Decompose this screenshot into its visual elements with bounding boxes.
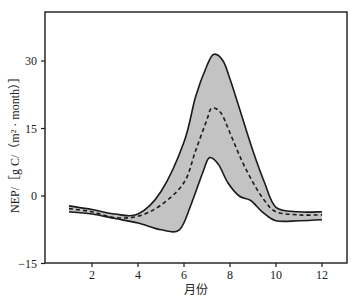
x-tick-label: 2 — [89, 268, 95, 282]
nep-band-chart: 24681012 −1501530 月份 NEP/［g C/（m² · mont… — [0, 0, 354, 302]
x-tick-label: 10 — [270, 268, 282, 282]
y-tick-label: 0 — [31, 189, 37, 203]
y-tick-label: 30 — [25, 54, 37, 68]
plot-area — [69, 54, 322, 232]
uncertainty-band — [69, 54, 322, 232]
x-tick-label: 8 — [227, 268, 233, 282]
x-axis-ticks: 24681012 — [89, 263, 328, 282]
x-tick-label: 6 — [181, 268, 187, 282]
x-tick-label: 4 — [135, 268, 141, 282]
x-axis-label: 月份 — [184, 283, 208, 297]
y-tick-label: −15 — [18, 257, 37, 271]
y-tick-label: 15 — [25, 122, 37, 136]
y-axis-label: NEP/［g C/（m² · month）］ — [8, 71, 22, 213]
y-axis-ticks: −1501530 — [18, 54, 45, 271]
x-tick-label: 12 — [316, 268, 328, 282]
